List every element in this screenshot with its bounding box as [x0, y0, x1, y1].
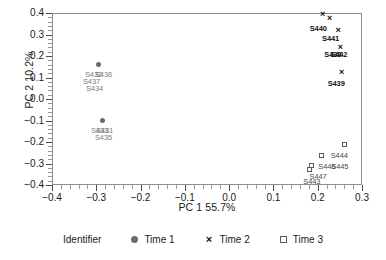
y-tick-mark — [46, 164, 52, 165]
y-tick-minor — [48, 73, 52, 74]
x-axis-title: PC 1 55.7% — [52, 201, 362, 213]
data-point-label: S435 — [95, 134, 112, 142]
x-tick-mark — [185, 185, 186, 191]
x-tick-minor — [238, 185, 239, 189]
y-tick-minor — [48, 151, 52, 152]
y-tick-minor — [48, 116, 52, 117]
legend-title: Identifier — [63, 234, 101, 245]
y-tick-minor — [48, 155, 52, 156]
data-point-marker — [342, 142, 347, 147]
circle-marker-icon — [131, 236, 138, 243]
y-tick-minor — [48, 168, 52, 169]
x-tick-minor — [344, 185, 345, 189]
data-point-label: S443 — [303, 178, 320, 186]
y-tick-minor — [48, 26, 52, 27]
y-tick-minor — [48, 60, 52, 61]
x-tick-minor — [256, 185, 257, 189]
x-tick-minor — [211, 185, 212, 189]
y-tick-mark — [46, 142, 52, 143]
y-tick-label: 0.0 — [8, 93, 44, 104]
y-tick-label: −0.3 — [8, 158, 44, 169]
y-tick-minor — [48, 138, 52, 139]
legend-entry-label: Time 2 — [220, 234, 250, 245]
y-tick-label: 0.3 — [8, 29, 44, 40]
x-tick-mark — [141, 185, 142, 191]
y-tick-minor — [48, 39, 52, 40]
x-tick-minor — [300, 185, 301, 189]
x-tick-minor — [70, 185, 71, 189]
data-point-label: S434 — [86, 85, 103, 93]
plot-area — [52, 13, 362, 185]
x-tick-minor — [79, 185, 80, 189]
x-tick-mark — [318, 185, 319, 191]
x-tick-minor — [167, 185, 168, 189]
legend: Identifier Time 1×Time 2Time 3 — [0, 228, 386, 250]
data-point-label: S445 — [331, 163, 348, 171]
x-tick-mark — [273, 185, 274, 191]
cross-marker-icon: × — [205, 234, 214, 245]
y-tick-minor — [48, 125, 52, 126]
y-tick-label: 0.1 — [8, 72, 44, 83]
legend-entry-label: Time 1 — [144, 234, 174, 245]
y-tick-minor — [48, 95, 52, 96]
y-tick-mark — [46, 13, 52, 14]
data-point-marker — [319, 153, 324, 158]
x-tick-mark — [362, 185, 363, 191]
y-tick-label: −0.1 — [8, 115, 44, 126]
x-tick-minor — [176, 185, 177, 189]
y-tick-mark — [46, 35, 52, 36]
y-tick-minor — [48, 22, 52, 23]
y-tick-minor — [48, 112, 52, 113]
x-tick-mark — [52, 185, 53, 191]
y-tick-minor — [48, 47, 52, 48]
y-tick-label: 0.4 — [8, 7, 44, 18]
y-tick-label: 0.2 — [8, 50, 44, 61]
y-tick-minor — [48, 86, 52, 87]
y-tick-minor — [48, 43, 52, 44]
data-point-marker: × — [337, 68, 346, 77]
x-tick-minor — [132, 185, 133, 189]
y-tick-mark — [46, 121, 52, 122]
y-tick-minor — [48, 108, 52, 109]
legend-entry-label: Time 3 — [293, 234, 323, 245]
x-tick-minor — [220, 185, 221, 189]
x-tick-minor — [105, 185, 106, 189]
y-tick-minor — [48, 176, 52, 177]
data-point-label: S439 — [328, 80, 345, 88]
y-tick-minor — [48, 129, 52, 130]
data-point-label: S440 — [310, 25, 327, 33]
y-tick-minor — [48, 30, 52, 31]
x-tick-minor — [247, 185, 248, 189]
y-tick-minor — [48, 181, 52, 182]
legend-entry-time-1[interactable]: Time 1 — [131, 234, 174, 245]
x-tick-minor — [327, 185, 328, 189]
x-tick-minor — [353, 185, 354, 189]
y-tick-minor — [48, 52, 52, 53]
x-tick-minor — [114, 185, 115, 189]
x-tick-minor — [194, 185, 195, 189]
x-tick-minor — [203, 185, 204, 189]
y-tick-mark — [46, 78, 52, 79]
y-tick-minor — [48, 146, 52, 147]
x-tick-minor — [149, 185, 150, 189]
data-point-label: S441 — [322, 35, 339, 43]
x-tick-minor — [123, 185, 124, 189]
legend-entry-time-3[interactable]: Time 3 — [280, 234, 323, 245]
x-tick-mark — [229, 185, 230, 191]
pca-scatter-plot: PC 2 10.2% 0.40.30.20.10.0−0.1−0.2−0.3−0… — [0, 0, 386, 260]
data-point-marker — [307, 167, 312, 172]
y-tick-minor — [48, 17, 52, 18]
y-tick-label: −0.2 — [8, 136, 44, 147]
x-tick-mark — [96, 185, 97, 191]
y-tick-minor — [48, 103, 52, 104]
x-tick-minor — [335, 185, 336, 189]
x-tick-minor — [87, 185, 88, 189]
y-tick-minor — [48, 65, 52, 66]
y-tick-mark — [46, 56, 52, 57]
x-tick-minor — [265, 185, 266, 189]
x-tick-minor — [291, 185, 292, 189]
y-tick-minor — [48, 159, 52, 160]
data-point-label: S444 — [331, 152, 348, 160]
legend-entry-time-2[interactable]: ×Time 2 — [205, 234, 250, 245]
x-tick-minor — [282, 185, 283, 189]
